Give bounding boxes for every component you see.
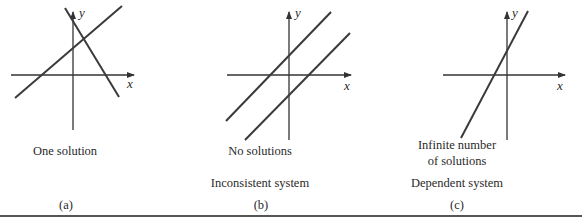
panel-b-tag: (b) — [254, 198, 269, 213]
panel-c-system-type: Dependent system — [411, 176, 503, 191]
panel-b-x-label: x — [344, 78, 350, 94]
panel-a-x-label: x — [127, 76, 133, 92]
panel-a-graph — [11, 6, 134, 130]
panel-a-caption: One solution — [33, 144, 97, 159]
panel-b-caption: No solutions — [228, 144, 292, 159]
panel-c-x-label: x — [557, 78, 563, 94]
panel-b-y-label: y — [295, 5, 301, 21]
panel-c-y-label: y — [512, 5, 518, 21]
panel-c-caption-line1: Infinite number — [418, 138, 496, 153]
line-lower-parallel — [245, 33, 350, 140]
panel-a-y-label: y — [79, 5, 85, 21]
bottom-rule — [0, 215, 582, 217]
panel-c-caption-line2: of solutions — [428, 154, 487, 169]
panel-b-system-type: Inconsistent system — [211, 176, 309, 191]
panel-a-tag: (a) — [59, 198, 73, 213]
panel-c-graph — [443, 11, 565, 140]
panel-b-graph — [226, 12, 351, 140]
line-positive-slope — [15, 6, 122, 98]
panel-c-tag: (c) — [450, 198, 464, 213]
